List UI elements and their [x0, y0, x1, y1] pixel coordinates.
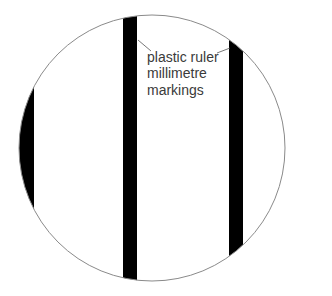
label-line-2: millimetre: [147, 65, 207, 81]
marking-left: [19, 0, 34, 296]
marking-center: [123, 0, 137, 296]
label-line-3: markings: [147, 82, 204, 98]
label: plastic ruler millimetre markings: [147, 49, 222, 98]
magnifier-diagram: plastic ruler millimetre markings: [0, 0, 332, 296]
ruler-markings: [19, 0, 243, 296]
label-line-1: plastic ruler: [147, 49, 219, 65]
diagram-canvas: plastic ruler millimetre markings: [0, 0, 332, 296]
